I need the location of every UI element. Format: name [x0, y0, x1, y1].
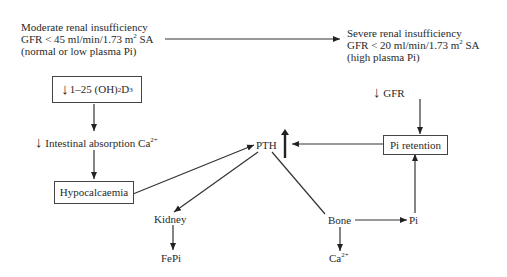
moderate-gfr: GFR < 45 ml/min/1.73 m2 SA	[21, 33, 154, 45]
moderate-title: Moderate renal insufficiency	[21, 21, 154, 33]
bone-label: Bone	[328, 214, 351, 226]
severe-insufficiency-label: Severe renal insufficiency GFR < 20 ml/m…	[347, 27, 480, 63]
pi-label: Pi	[409, 214, 418, 226]
down-arrow-icon: ↓	[35, 134, 43, 150]
severe-plasma: (high plasma Pi)	[347, 51, 480, 63]
moderate-gfr-unit: SA	[137, 33, 154, 45]
vitamin-d-box: ↓1–25 (OH)2 D3	[52, 76, 142, 103]
pi-retention-box: Pi retention	[383, 135, 448, 155]
fepi-label: FePi	[161, 252, 181, 264]
moderate-gfr-text: GFR < 45 ml/min/1.73 m	[21, 33, 133, 45]
gfr-label: ↓ GFR	[373, 86, 405, 99]
hypocalcaemia-box: Hypocalcaemia	[54, 181, 134, 204]
moderate-plasma: (normal or low plasma Pi)	[21, 45, 154, 57]
ca-text: Ca	[329, 252, 341, 264]
severe-title: Severe renal insufficiency	[347, 27, 480, 39]
ca-sup: 2+	[341, 251, 348, 259]
severe-gfr-unit: SA	[463, 39, 480, 51]
intestinal-text: Intestinal absorption Ca	[45, 137, 150, 149]
vitd-d: D	[121, 83, 129, 96]
severe-gfr-text: GFR < 20 ml/min/1.73 m	[347, 39, 459, 51]
moderate-insufficiency-label: Moderate renal insufficiency GFR < 45 ml…	[21, 21, 154, 57]
down-arrow-icon: ↓	[373, 84, 381, 100]
gfr-text: GFR	[383, 87, 404, 99]
pth-label: PTH	[256, 139, 277, 151]
severe-gfr: GFR < 20 ml/min/1.73 m2 SA	[347, 39, 480, 51]
calcium-label: Ca2+	[329, 252, 349, 264]
down-arrow-icon: ↓	[61, 83, 69, 96]
intestinal-absorption-label: ↓ Intestinal absorption Ca2+	[35, 136, 158, 149]
intestinal-sup: 2+	[150, 136, 157, 144]
kidney-label: Kidney	[154, 213, 186, 225]
vitd-text: 1–25 (OH)	[70, 83, 118, 96]
